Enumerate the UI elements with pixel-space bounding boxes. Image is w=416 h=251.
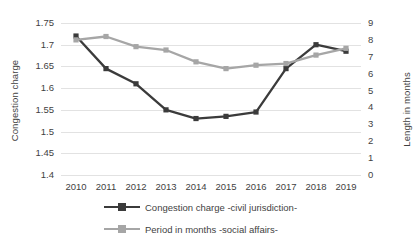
data-point-marker: [133, 81, 138, 86]
right-tick-label: 4: [368, 101, 390, 112]
legend-label-series-1: Period in months -social affairs-: [145, 224, 278, 235]
left-tick-label: 1.55: [20, 104, 54, 115]
right-tick-label: 9: [368, 17, 390, 28]
legend: Congestion charge -civil jurisdiction- P…: [0, 196, 416, 240]
right-tick-label: 5: [368, 85, 390, 96]
data-point-marker: [193, 116, 198, 121]
x-tick-label: 2018: [299, 181, 333, 192]
x-tick-label: 2014: [179, 181, 213, 192]
gridline: [61, 175, 361, 176]
right-tick-label: 1: [368, 152, 390, 163]
legend-item-0[interactable]: Congestion charge -civil jurisdiction-: [0, 196, 416, 218]
left-tick-label: 1.45: [20, 147, 54, 158]
legend-swatch-series-0: [104, 201, 140, 213]
data-point-marker: [313, 42, 318, 47]
x-tick-label: 2017: [269, 181, 303, 192]
x-tick-label: 2010: [59, 181, 93, 192]
right-axis-title: Length in months: [401, 50, 412, 170]
left-tick-label: 1.5: [20, 126, 54, 137]
line-chart: Congestion charge Length in months 1.751…: [0, 0, 416, 251]
legend-label-series-0: Congestion charge -civil jurisdiction-: [145, 202, 297, 213]
data-point-marker: [313, 52, 318, 57]
left-tick-label: 1.4: [20, 169, 54, 180]
left-tick-label: 1.75: [20, 17, 54, 28]
legend-item-1[interactable]: Period in months -social affairs-: [0, 218, 416, 240]
right-tick-label: 7: [368, 51, 390, 62]
x-tick-label: 2016: [239, 181, 273, 192]
x-tick-label: 2011: [89, 181, 123, 192]
left-tick-label: 1.6: [20, 82, 54, 93]
data-point-marker: [103, 34, 108, 39]
plot-area: [61, 23, 361, 175]
right-tick-label: 3: [368, 118, 390, 129]
x-tick-label: 2015: [209, 181, 243, 192]
data-point-marker: [283, 61, 288, 66]
x-tick-label: 2019: [329, 181, 363, 192]
data-point-marker: [253, 109, 258, 114]
data-point-marker: [133, 44, 138, 49]
data-point-marker: [163, 47, 168, 52]
data-point-marker: [193, 59, 198, 64]
series-line: [76, 36, 346, 119]
x-tick-label: 2013: [149, 181, 183, 192]
data-point-marker: [223, 114, 228, 119]
right-tick-label: 6: [368, 68, 390, 79]
data-point-marker: [343, 46, 348, 51]
data-point-marker: [73, 37, 78, 42]
series-layer: [61, 23, 361, 175]
left-axis-title: Congestion charge: [9, 41, 20, 161]
right-tick-label: 0: [368, 169, 390, 180]
data-point-marker: [283, 66, 288, 71]
x-tick-label: 2012: [119, 181, 153, 192]
data-point-marker: [223, 66, 228, 71]
left-tick-label: 1.65: [20, 60, 54, 71]
data-point-marker: [253, 63, 258, 68]
data-point-marker: [103, 66, 108, 71]
left-tick-label: 1.7: [20, 39, 54, 50]
legend-swatch-series-1: [104, 223, 140, 235]
right-tick-label: 8: [368, 34, 390, 45]
right-tick-label: 2: [368, 135, 390, 146]
data-point-marker: [163, 107, 168, 112]
